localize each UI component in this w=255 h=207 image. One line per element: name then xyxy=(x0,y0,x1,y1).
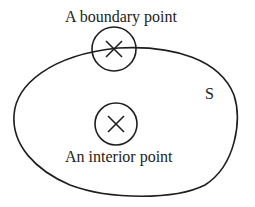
set-s-boundary-curve xyxy=(14,48,237,197)
diagram-canvas: A boundary point An interior point S xyxy=(0,0,255,207)
set-label: S xyxy=(205,85,214,102)
boundary-point-marker xyxy=(92,27,136,71)
interior-point-label: An interior point xyxy=(65,148,173,166)
interior-point-marker xyxy=(95,103,137,145)
boundary-point-label: A boundary point xyxy=(65,8,178,26)
